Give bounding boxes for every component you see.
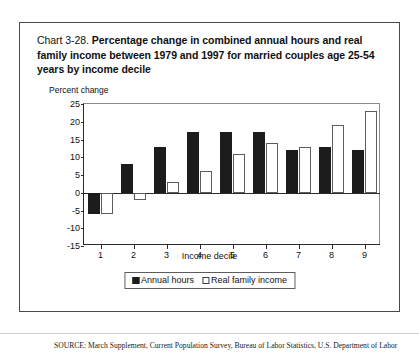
x-tick-mark <box>299 245 300 249</box>
legend-label-annual-hours: Annual hours <box>141 275 194 285</box>
y-tick-label: 0 <box>54 188 84 198</box>
legend-label-real-family-income: Real family income <box>211 275 287 285</box>
y-tick-label: -5 <box>54 206 84 216</box>
page-divider <box>0 333 419 334</box>
bar-annual-hours-decile-6 <box>253 132 266 192</box>
chart-title: Chart 3-28. Percentage change in combine… <box>37 33 385 77</box>
x-tick-mark <box>233 245 234 249</box>
x-tick-mark <box>266 245 267 249</box>
white-square-icon <box>202 277 209 284</box>
bar-real-family-income-decile-3 <box>167 182 180 193</box>
y-tick-label: 15 <box>54 135 84 145</box>
bar-real-family-income-decile-9 <box>365 111 378 193</box>
bar-annual-hours-decile-8 <box>319 147 332 193</box>
bar-real-family-income-decile-5 <box>233 154 246 193</box>
y-tick-label: 10 <box>54 152 84 162</box>
y-tick-label: 20 <box>54 117 84 127</box>
y-tick-label: 25 <box>54 99 84 109</box>
y-tick-mark <box>81 246 84 247</box>
x-tick-mark <box>332 245 333 249</box>
legend-item-annual-hours: Annual hours <box>132 275 194 285</box>
black-square-icon <box>132 277 139 284</box>
x-axis-label: Income decile <box>20 251 399 261</box>
bar-real-family-income-decile-2 <box>134 193 147 200</box>
source-note: SOURCE: March Supplement, Current Popula… <box>54 341 419 350</box>
x-tick-mark <box>200 245 201 249</box>
bar-annual-hours-decile-2 <box>121 164 134 192</box>
y-tick-label: -10 <box>54 223 84 233</box>
y-tick-label: -15 <box>54 241 84 251</box>
bar-real-family-income-decile-4 <box>200 171 213 192</box>
y-axis-label: Percent change <box>49 85 109 95</box>
x-tick-mark <box>101 245 102 249</box>
bar-real-family-income-decile-8 <box>332 125 345 192</box>
bar-annual-hours-decile-9 <box>352 150 365 193</box>
x-tick-mark <box>134 245 135 249</box>
y-tick-label: 5 <box>54 170 84 180</box>
bar-annual-hours-decile-4 <box>187 132 200 192</box>
x-tick-mark <box>167 245 168 249</box>
bar-annual-hours-decile-1 <box>88 193 101 214</box>
chart-legend: Annual hours Real family income <box>124 272 295 289</box>
bar-real-family-income-decile-7 <box>299 147 312 193</box>
plot-area: 2520151050-5-10-15 123456789 <box>83 103 380 245</box>
bar-annual-hours-decile-5 <box>220 132 233 192</box>
bar-annual-hours-decile-3 <box>154 147 167 193</box>
legend-item-real-family-income: Real family income <box>202 275 287 285</box>
bar-real-family-income-decile-1 <box>101 193 114 214</box>
bar-annual-hours-decile-7 <box>286 150 299 193</box>
chart-number: Chart 3-28. <box>37 34 89 46</box>
bar-real-family-income-decile-6 <box>266 143 279 193</box>
bar-series-container <box>84 104 379 245</box>
x-tick-mark <box>365 245 366 249</box>
chart-figure-frame: Chart 3-28. Percentage change in combine… <box>19 22 400 312</box>
